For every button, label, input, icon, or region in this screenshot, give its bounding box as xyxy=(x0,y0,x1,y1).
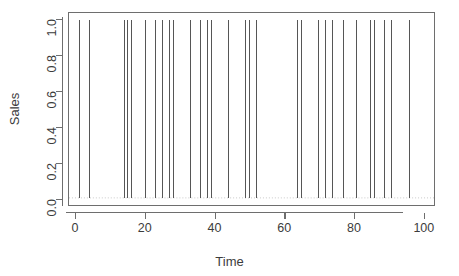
y-tick-label: 0.4 xyxy=(46,127,59,144)
x-tick-label: 80 xyxy=(347,222,361,235)
x-tick-mark xyxy=(354,213,355,219)
plot-data-area xyxy=(69,13,434,205)
x-axis-line xyxy=(66,212,403,213)
chart-canvas: 020406080100 0.00.20.40.60.81.0 Time Sal… xyxy=(0,0,459,276)
plot-frame xyxy=(68,12,435,206)
x-tick-mark xyxy=(424,213,425,219)
x-tick-mark xyxy=(215,213,216,219)
x-tick-mark xyxy=(75,213,76,219)
x-tick-label: 0 xyxy=(71,222,78,235)
chart-title xyxy=(0,0,459,8)
y-tick-label: 0.0 xyxy=(46,199,59,216)
x-tick-label: 60 xyxy=(277,222,291,235)
y-tick-label: 0.6 xyxy=(46,91,59,108)
x-tick-label: 20 xyxy=(138,222,152,235)
x-tick-label: 40 xyxy=(208,222,222,235)
y-axis-line xyxy=(62,17,63,206)
x-axis-title: Time xyxy=(0,254,459,269)
x-tick-label: 100 xyxy=(413,222,434,235)
y-axis-title: Sales xyxy=(7,93,22,126)
x-tick-mark xyxy=(145,213,146,219)
y-tick-label: 0.2 xyxy=(46,163,59,180)
y-tick-label: 0.8 xyxy=(46,55,59,72)
y-tick-label: 1.0 xyxy=(46,19,59,36)
x-tick-mark xyxy=(284,213,285,219)
spike-series xyxy=(69,13,434,205)
